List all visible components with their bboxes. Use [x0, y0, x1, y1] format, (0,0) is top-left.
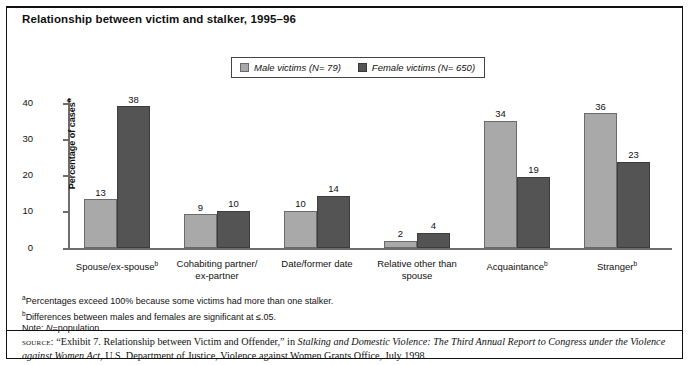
bar-female-3 [417, 233, 450, 248]
bar-value-female-3: 4 [417, 220, 450, 231]
bar-female-4 [517, 177, 550, 248]
bar-male-4 [484, 121, 517, 249]
bar-value-male-5: 36 [584, 101, 617, 112]
y-tick-30 [63, 139, 68, 141]
y-ticklabel-30: 30 [3, 133, 33, 144]
footnote-a-text: Percentages exceed 100% because some vic… [26, 296, 334, 306]
legend-swatch-male-icon [240, 63, 249, 72]
y-tick-0 [63, 248, 68, 250]
y-ticklabel-20: 20 [3, 169, 33, 180]
legend-item-male: Male victims (N= 79) [240, 62, 341, 73]
bar-male-3 [384, 241, 417, 249]
source-part2: , U.S. Department of Justice, Violence a… [100, 350, 425, 361]
x-category-label-5-superscript: b [633, 260, 637, 267]
bar-value-female-0: 38 [117, 94, 150, 105]
bar-male-1 [184, 214, 217, 248]
bar-value-male-4: 34 [484, 108, 517, 119]
footnote-note-rest: =population. [53, 323, 102, 333]
bar-value-female-1: 10 [217, 198, 250, 209]
source-divider [7, 330, 682, 331]
bar-female-1 [217, 211, 250, 249]
bar-value-male-3: 2 [384, 228, 417, 239]
y-axis-title: Percentage of casesa [65, 94, 77, 194]
bar-value-female-2: 14 [317, 183, 350, 194]
y-tick-10 [63, 211, 68, 213]
figure-top-rule [6, 6, 683, 8]
bar-value-male-2: 10 [284, 198, 317, 209]
y-tick-20 [63, 175, 68, 177]
chart-legend: Male victims (N= 79) Female victims (N= … [231, 57, 485, 78]
legend-item-female: Female victims (N= 650) [358, 62, 475, 73]
footnote-b: bDifferences between males and females a… [22, 308, 662, 324]
bar-value-male-1: 9 [184, 202, 217, 213]
bar-male-2 [284, 211, 317, 249]
bar-value-female-4: 19 [517, 164, 550, 175]
footnotes: aPercentages exceed 100% because some vi… [22, 292, 662, 335]
source-part1: “Exhibit 7. Relationship between Victim … [54, 336, 298, 347]
x-category-label-5: Strangerb [517, 258, 693, 273]
source-citation: source: “Exhibit 7. Relationship between… [22, 335, 672, 362]
bar-female-0 [117, 106, 150, 249]
y-ticklabel-40: 40 [3, 97, 33, 108]
figure-root: Relationship between victim and stalker,… [0, 0, 693, 365]
bar-value-female-5: 23 [617, 149, 650, 160]
legend-swatch-female-icon [358, 63, 367, 72]
footnote-a: aPercentages exceed 100% because some vi… [22, 292, 662, 308]
y-axis-title-text: Percentage of cases [67, 102, 77, 189]
x-category-label-1-line2: ex-partner [195, 270, 238, 281]
footnote-note: Note: N=population. [22, 323, 662, 335]
x-category-label-5-line1: Stranger [597, 261, 633, 272]
bar-female-5 [617, 162, 650, 248]
source-label: source: [22, 337, 54, 347]
x-axis-line [68, 248, 672, 250]
plot-area: Percentage of casesa 40 30 20 10 0 13 38… [68, 98, 672, 248]
footnote-b-text: Differences between males and females ar… [26, 312, 276, 322]
bar-male-5 [584, 113, 617, 248]
y-axis-title-superscript: a [65, 99, 72, 103]
legend-label-female: Female victims (N= 650) [372, 62, 475, 73]
bar-female-2 [317, 196, 350, 249]
y-ticklabel-10: 10 [3, 205, 33, 216]
legend-label-male: Male victims (N= 79) [254, 62, 341, 73]
y-tick-40 [63, 103, 68, 105]
bar-male-0 [84, 199, 117, 248]
page-title: Relationship between victim and stalker,… [22, 13, 296, 25]
y-ticklabel-0: 0 [3, 242, 33, 253]
footnote-note-prefix: Note: [22, 323, 46, 333]
bar-value-male-0: 13 [84, 187, 117, 198]
